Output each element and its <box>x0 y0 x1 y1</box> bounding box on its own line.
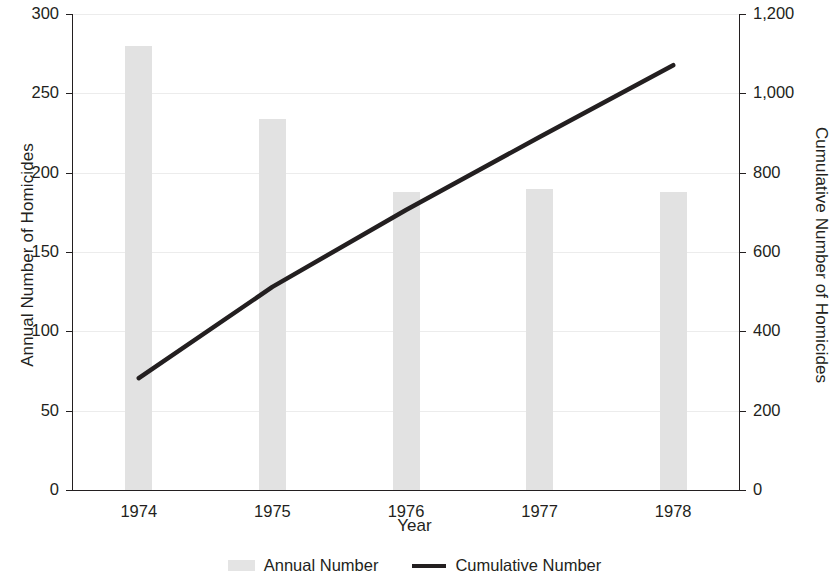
legend-label-annual-number: Annual Number <box>264 556 379 575</box>
y-axis-left-tick <box>66 411 72 412</box>
y-axis-right-tick-label: 1,000 <box>753 83 794 102</box>
y-axis-left-tick <box>66 331 72 332</box>
y-axis-right-tick <box>740 411 746 412</box>
legend-item-cumulative-number: Cumulative Number <box>412 556 601 575</box>
y-axis-right-tick <box>740 490 746 491</box>
y-axis-right-tick-label: 600 <box>753 242 781 261</box>
y-axis-left-tick-label: 50 <box>41 401 59 420</box>
y-axis-left-tick-label: 150 <box>31 242 59 261</box>
x-axis-tick-label-1976: 1976 <box>366 502 446 521</box>
y-axis-left-tick-label: 100 <box>31 321 59 340</box>
x-axis-tick-label-1977: 1977 <box>500 502 580 521</box>
x-axis-tick-label-1974: 1974 <box>99 502 179 521</box>
y-axis-right-tick-label: 1,200 <box>753 4 794 23</box>
line-series-cumulative-number <box>72 14 740 491</box>
line-swatch-icon <box>412 564 446 568</box>
y-axis-left-tick <box>66 490 72 491</box>
x-axis-tick-label-1975: 1975 <box>232 502 312 521</box>
y-axis-left-tick-label: 300 <box>31 4 59 23</box>
legend-label-cumulative-number: Cumulative Number <box>455 556 601 575</box>
y-axis-left-line <box>72 14 73 491</box>
y-axis-right-tick-label: 0 <box>753 480 762 499</box>
y-axis-right-tick <box>740 252 746 253</box>
y-axis-right-tick <box>740 93 746 94</box>
y-axis-right-tick-label: 200 <box>753 401 781 420</box>
chart-legend: Annual Number Cumulative Number <box>0 556 829 575</box>
y-axis-right-tick-label: 800 <box>753 163 781 182</box>
y-axis-right-tick <box>740 14 746 15</box>
legend-item-annual-number: Annual Number <box>228 556 379 575</box>
x-axis-tick-label-1978: 1978 <box>633 502 713 521</box>
bar-swatch-icon <box>228 560 255 571</box>
y-axis-left-tick <box>66 252 72 253</box>
y-axis-left-tick-label: 250 <box>31 83 59 102</box>
y-axis-left-tick <box>66 14 72 15</box>
y-axis-right-tick <box>740 331 746 332</box>
y-axis-left-tick <box>66 173 72 174</box>
x-axis-line <box>72 490 740 491</box>
y-axis-right-tick-label: 400 <box>753 321 781 340</box>
y-axis-right-tick <box>740 173 746 174</box>
y-axis-left-tick-label: 0 <box>50 480 59 499</box>
y-axis-right-title: Cumulative Number of Homicides <box>811 105 829 405</box>
homicides-chart-figure: Annual Number of Homicides Cumulative Nu… <box>0 0 829 586</box>
y-axis-left-tick-label: 200 <box>31 163 59 182</box>
plot-area: 050100150200250300 02004006008001,0001,2… <box>72 14 740 490</box>
y-axis-left-tick <box>66 93 72 94</box>
